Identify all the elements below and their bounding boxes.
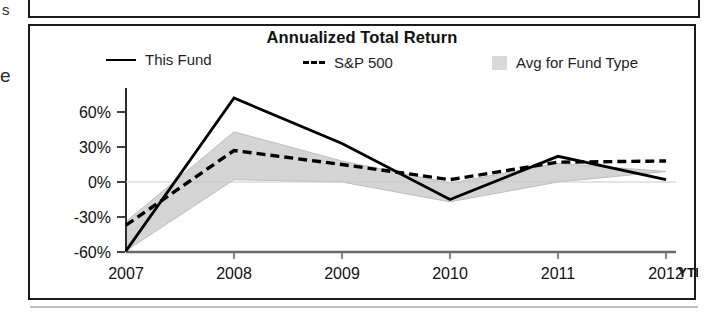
y-tick-label: -60% [74,244,111,261]
x-tick-label: 2009 [324,265,360,282]
upper-table-box [28,0,700,18]
x-tick-label: 2010 [432,265,468,282]
x-tick-label: 2011 [541,265,576,282]
annualized-total-return-chart: Annualized Total Return This Fund S&P 50… [28,24,696,300]
y-tick-label: 30% [79,139,111,156]
ytd-label: YTD [678,265,698,280]
plot-area: 60%30%0%-30%-60% 20072008200920102011201… [30,26,698,298]
y-tick-label: 0% [88,174,111,191]
scan-fragment-mid-left: e [0,66,11,85]
y-tick-label: 60% [79,104,111,121]
scan-fragment-top-left: s [2,2,10,17]
page-bottom-rule [30,306,698,308]
x-axis-tick-labels: 200720082009201020112012 [108,265,684,282]
ytd-annotation: YTD [678,265,698,280]
x-tick-label: 2008 [216,265,252,282]
x-tick-label: 2007 [108,265,144,282]
plot-svg: 60%30%0%-30%-60% 20072008200920102011201… [30,26,698,298]
y-tick-label: -30% [74,209,111,226]
y-axis-tick-labels: 60%30%0%-30%-60% [74,104,111,261]
avg-fund-type-band [126,132,666,251]
